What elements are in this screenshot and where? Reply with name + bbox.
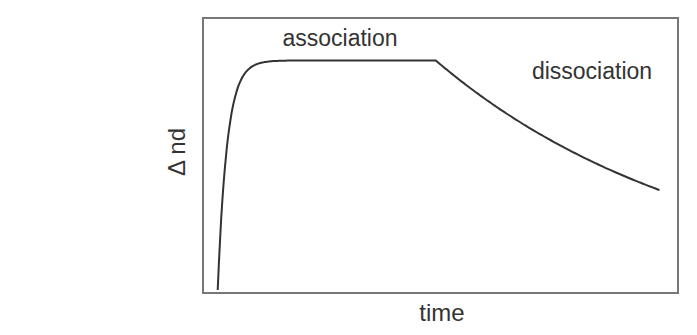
chart: association dissociation time Δ nd — [0, 0, 697, 335]
x-axis-label: time — [419, 299, 464, 326]
association-annotation: association — [282, 25, 397, 51]
y-axis-label: Δ nd — [163, 128, 190, 176]
binding-curve-line — [218, 61, 660, 291]
dissociation-annotation: dissociation — [532, 58, 652, 84]
